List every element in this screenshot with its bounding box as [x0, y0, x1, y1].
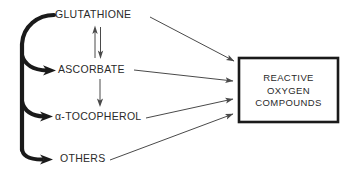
arrows-to-reactive-oxygen-box	[110, 17, 234, 160]
arrow-tocopherol-to-box	[146, 99, 233, 118]
node-label-tocopherol: α-TOCOPHEROL	[55, 110, 142, 122]
node-label-ascorbate: ASCORBATE	[58, 63, 125, 75]
arrow-ascorbate-to-box	[134, 70, 233, 81]
thick-branch-trunk-group	[22, 15, 56, 165]
node-label-others: OTHERS	[60, 152, 106, 164]
box-label-line-3: COMPOUNDS	[255, 97, 321, 108]
diagram-canvas: GLUTATHIONE ASCORBATE α-TOCOPHEROL OTHER…	[0, 0, 353, 179]
arrow-ascorbate-to-tocopherol	[97, 79, 103, 107]
reversible-arrow-glutathione-ascorbate	[92, 26, 103, 60]
diagram-figure: GLUTATHIONE ASCORBATE α-TOCOPHEROL OTHER…	[0, 0, 353, 179]
thick-branch-to-ascorbate	[22, 55, 47, 71]
box-label-line-2: OXYGEN	[267, 85, 310, 96]
thick-trunk-main	[22, 15, 54, 150]
node-label-glutathione: GLUTATHIONE	[55, 8, 131, 20]
thick-branch-to-others	[22, 148, 42, 160]
thick-branch-to-tocopherol	[22, 101, 44, 117]
arrow-glutathione-to-box	[150, 17, 234, 61]
box-label-line-1: REACTIVE	[263, 72, 314, 83]
